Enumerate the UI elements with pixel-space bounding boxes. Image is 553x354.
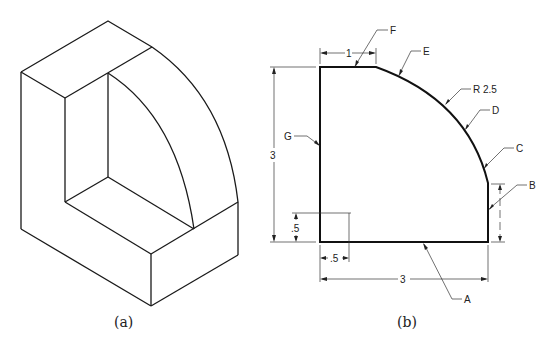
arrow-icon bbox=[272, 235, 276, 242]
arrow-icon bbox=[498, 184, 502, 190]
profile-outline bbox=[320, 67, 488, 242]
arrow-icon bbox=[272, 67, 276, 74]
arrow-icon bbox=[369, 51, 376, 55]
label-f: F bbox=[390, 25, 396, 36]
caption-a: (a) bbox=[114, 314, 133, 330]
inner-floor-front-edge bbox=[65, 202, 151, 254]
arrow-icon bbox=[423, 243, 428, 250]
arrow-icon bbox=[465, 124, 469, 130]
leader-r bbox=[446, 89, 471, 104]
dim-inner-height: .5 bbox=[291, 223, 300, 234]
inner-floor-back-edge bbox=[65, 177, 108, 202]
caption-b: (b) bbox=[397, 314, 417, 330]
leader-a bbox=[424, 244, 462, 299]
leader-f bbox=[355, 30, 388, 66]
leader-g bbox=[294, 136, 319, 145]
label-radius: R 2.5 bbox=[473, 84, 497, 95]
arrow-icon bbox=[343, 256, 349, 260]
top-front-left-edge bbox=[21, 72, 65, 98]
bottom-left-edge bbox=[21, 229, 151, 306]
top-back-edges bbox=[21, 21, 152, 72]
arrow-icon bbox=[399, 69, 403, 76]
label-d: D bbox=[492, 105, 499, 116]
label-a: A bbox=[464, 294, 471, 305]
dim-top-flat: 1 bbox=[346, 48, 352, 59]
inner-arc-edge bbox=[108, 73, 194, 229]
arrow-icon bbox=[294, 236, 298, 242]
inner-floor-right-edge bbox=[108, 177, 194, 229]
arrow-icon bbox=[498, 236, 502, 242]
isometric-view bbox=[21, 21, 238, 306]
arrow-icon bbox=[484, 163, 488, 169]
figure-canvas: (a) 1 F E R 2.5 D C B bbox=[0, 0, 553, 354]
arrow-icon bbox=[320, 277, 327, 281]
profile-view: 1 F E R 2.5 D C B G bbox=[270, 25, 536, 305]
label-e: E bbox=[423, 46, 430, 57]
arrow-icon bbox=[320, 256, 326, 260]
label-g: G bbox=[284, 131, 292, 142]
dim-inner-width: .5 bbox=[330, 253, 339, 264]
label-b: B bbox=[529, 180, 536, 191]
dim-height: 3 bbox=[270, 150, 276, 161]
arrow-icon bbox=[320, 51, 327, 55]
arrow-icon bbox=[294, 213, 298, 219]
arrow-icon bbox=[445, 99, 450, 105]
leader-d bbox=[466, 110, 490, 129]
label-c: C bbox=[516, 143, 523, 154]
arrow-icon bbox=[481, 277, 488, 281]
block-top-front-edge bbox=[151, 202, 238, 254]
dim-width: 3 bbox=[400, 274, 406, 285]
outer-arc-edge bbox=[152, 47, 238, 202]
block-bottom-edge bbox=[151, 255, 238, 306]
leader-c bbox=[484, 148, 514, 168]
leader-b bbox=[489, 185, 527, 209]
